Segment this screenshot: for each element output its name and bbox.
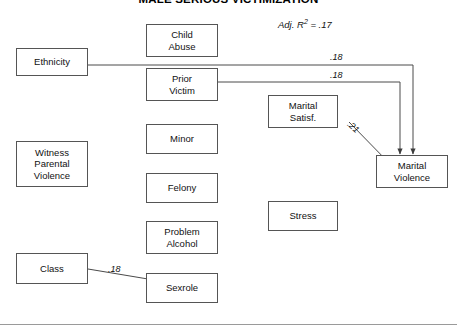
fit-statistic-annotation: Adj. R2 = .17 [278,18,332,30]
fit-statistic-value: = .17 [308,19,332,30]
node-stress: Stress [268,201,338,231]
node-problem-alcohol: Problem Alcohol [146,221,218,254]
node-witness-line3: Violence [34,170,70,182]
node-stress-line1: Stress [290,210,317,222]
node-child-abuse-line2: Abuse [169,41,196,53]
node-marital-violence-line2: Violence [394,172,430,184]
path-label-class-to-sexrole: .18 [108,264,121,274]
node-prior-victim-line2: Victim [169,85,195,97]
node-problem-alcohol-line2: Alcohol [166,238,197,250]
node-child-abuse-line1: Child [171,29,193,41]
node-felony: Felony [146,173,218,203]
node-ethnicity-line1: Ethnicity [34,56,70,68]
node-child-abuse: Child Abuse [146,24,218,57]
node-marital-violence-line1: Marital [398,160,427,172]
node-prior-victim: Prior Victim [146,68,218,101]
node-problem-alcohol-line1: Problem [164,226,199,238]
node-witness-line1: Witness [35,147,69,159]
node-class: Class [16,253,88,284]
node-ethnicity: Ethnicity [16,48,88,76]
path-label-ethnicity-to-marital-violence: .18 [330,52,343,62]
node-witness-parental-violence: Witness Parental Violence [16,141,88,187]
fit-statistic-label: Adj. R [278,19,304,30]
node-prior-victim-line1: Prior [172,73,192,85]
node-witness-line2: Parental [34,158,69,170]
path-diagram-figure: MALE SERIOUS VICTIMIZATION Adj. R2 = .17… [0,0,457,329]
node-minor: Minor [146,124,218,154]
node-class-line1: Class [40,263,64,275]
node-minor-line1: Minor [170,133,194,145]
node-marital-satisf-line1: Marital [289,100,318,112]
node-felony-line1: Felony [168,182,197,194]
node-marital-violence: Marital Violence [376,155,448,188]
path-label-prior-victim-to-marital-violence: .18 [330,70,343,80]
node-sexrole-line1: Sexrole [166,282,198,294]
node-marital-satisf: Marital Satisf. [268,95,338,128]
edge-ethnicity-to-marital-violence [88,65,413,154]
node-marital-satisf-line2: Satisf. [290,112,316,124]
node-sexrole: Sexrole [146,273,218,303]
